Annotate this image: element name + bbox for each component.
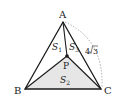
point-label-p: P	[63, 61, 69, 71]
point-p-dot	[65, 54, 69, 58]
svg-text:3: 3	[93, 47, 98, 56]
region-label-s1: S1	[52, 42, 62, 53]
triangle-diagram: A B C P S1 S3 S2 4 3	[0, 0, 118, 99]
diagram-canvas: A B C P S1 S3 S2 4 3	[0, 0, 118, 99]
length-label: 4 3	[85, 46, 98, 56]
vertex-label-a: A	[58, 9, 67, 20]
vertex-label-c: C	[104, 85, 112, 96]
svg-text:4: 4	[85, 47, 90, 56]
region-label-s3: S3	[69, 42, 79, 53]
vertex-label-b: B	[14, 85, 21, 96]
